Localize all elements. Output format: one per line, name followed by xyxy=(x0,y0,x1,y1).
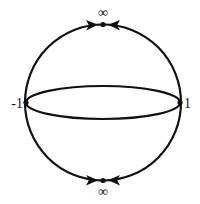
bottom-infinity-label: ∞ xyxy=(98,184,108,199)
sphere-diagram: ∞ ∞ -1 1 xyxy=(0,0,200,204)
left-point-label: -1 xyxy=(11,96,23,111)
top-infinity-point xyxy=(100,22,105,27)
right-point-label: 1 xyxy=(184,96,191,111)
equator-ellipse xyxy=(26,86,180,119)
left-point xyxy=(23,100,28,105)
arrowhead-lower-right xyxy=(108,175,120,186)
arrowhead-lower-left xyxy=(86,175,98,186)
right-point xyxy=(177,100,182,105)
bottom-infinity-point xyxy=(100,178,105,183)
outer-circle xyxy=(25,25,181,181)
top-infinity-label: ∞ xyxy=(98,5,108,20)
